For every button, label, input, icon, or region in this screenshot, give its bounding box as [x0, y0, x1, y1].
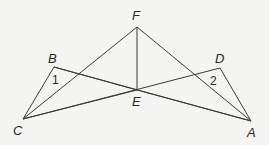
- vertex-label-c: C: [13, 123, 23, 138]
- vertex-label-e: E: [132, 94, 141, 109]
- vertex-label-b: B: [48, 51, 57, 66]
- segment-cb: [23, 67, 54, 119]
- geometry-diagram: FBCEDA 12: [0, 0, 269, 145]
- vertex-label-f: F: [132, 8, 141, 23]
- angle-label-1: 1: [52, 73, 59, 87]
- segment-ba: [54, 67, 251, 121]
- segment-cf: [23, 27, 137, 119]
- segment-da: [220, 68, 251, 121]
- segment-fa: [137, 27, 251, 121]
- vertex-label-a: A: [246, 125, 256, 140]
- angle-label-2: 2: [210, 74, 217, 88]
- vertex-label-d: D: [215, 51, 224, 66]
